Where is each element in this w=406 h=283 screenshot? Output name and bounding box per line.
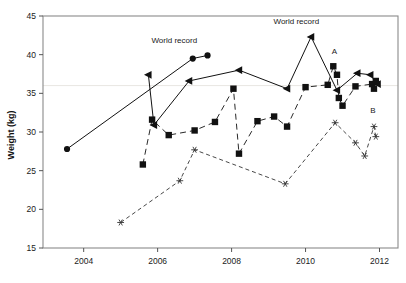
chart-canvas: 15202530354045 20042006200820102012 Worl… xyxy=(0,0,406,283)
data-point-square xyxy=(191,127,197,133)
data-point-square xyxy=(330,63,336,69)
y-axis-label: Weight (kg) xyxy=(6,111,16,160)
x-tick-label: 2012 xyxy=(370,256,389,266)
data-point-square xyxy=(254,118,260,124)
data-point-square xyxy=(302,84,308,90)
data-point-square xyxy=(325,82,331,88)
world-record-label-2: World record xyxy=(273,17,319,26)
data-point-square xyxy=(284,123,290,129)
chart-background xyxy=(0,0,406,283)
data-point-square xyxy=(271,113,277,119)
data-point-square xyxy=(339,103,345,109)
data-point-circle xyxy=(64,146,70,152)
y-tick-label: 45 xyxy=(27,11,37,21)
y-tick-label: 20 xyxy=(27,204,37,214)
world-record-label-1: World record xyxy=(151,36,197,45)
weight-vs-year-chart: 15202530354045 20042006200820102012 Worl… xyxy=(0,0,406,283)
data-point-square xyxy=(230,85,236,91)
x-tick-label: 2006 xyxy=(148,256,167,266)
data-point-square xyxy=(236,150,242,156)
y-tick-label: 15 xyxy=(27,243,37,253)
x-tick-label: 2010 xyxy=(296,256,315,266)
data-point-square xyxy=(212,119,218,125)
point-a-label: A xyxy=(332,47,338,56)
y-tick-label: 30 xyxy=(27,127,37,137)
data-point-square xyxy=(149,116,155,122)
data-point-square xyxy=(352,83,358,89)
data-point-square xyxy=(373,78,379,84)
data-point-circle xyxy=(190,55,196,61)
data-point-circle xyxy=(204,52,210,58)
data-point-square xyxy=(166,132,172,138)
data-point-square xyxy=(140,161,146,167)
data-point-square xyxy=(334,72,340,78)
y-tick-label: 25 xyxy=(27,166,37,176)
y-tick-label: 35 xyxy=(27,88,37,98)
x-tick-label: 2008 xyxy=(222,256,241,266)
point-b-label: B xyxy=(370,106,375,115)
data-point-square xyxy=(336,95,342,101)
y-tick-label: 40 xyxy=(27,50,37,60)
x-tick-label: 2004 xyxy=(74,256,93,266)
data-point-square xyxy=(371,85,377,91)
